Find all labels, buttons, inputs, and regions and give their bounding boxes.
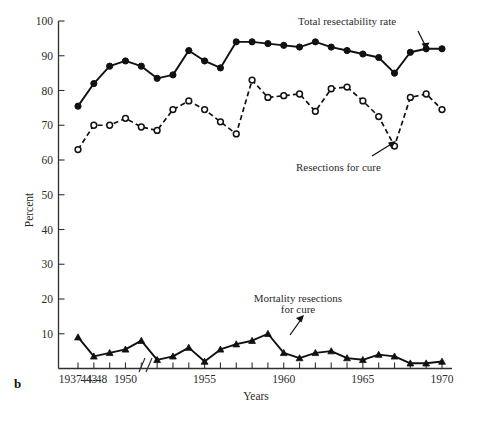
series-3 [75, 330, 446, 366]
data-point [217, 65, 223, 71]
data-point [154, 128, 160, 134]
data-point [138, 124, 144, 130]
data-point [202, 58, 208, 64]
data-point [123, 115, 129, 121]
data-point [107, 122, 113, 128]
x-tick-label: 1960 [272, 373, 295, 385]
data-point [439, 107, 445, 113]
panel-letter: b [14, 376, 21, 391]
data-point [249, 77, 255, 83]
y-tick-label: 30 [42, 258, 54, 270]
annotation-label-mortality-resections-line2: for cure [281, 303, 316, 315]
data-point [218, 119, 224, 125]
data-point [122, 58, 128, 64]
data-point [296, 44, 302, 50]
data-point [328, 44, 334, 50]
figure-panel-b: 102030405060708090100 Percent 1937-4344-… [0, 0, 486, 421]
data-point [376, 114, 382, 120]
data-point [297, 91, 303, 97]
y-axis: 102030405060708090100 Percent [23, 15, 65, 369]
data-point [186, 47, 192, 53]
data-point [344, 47, 350, 53]
y-axis-title: Percent [23, 192, 35, 227]
y-tick-label: 20 [42, 293, 54, 305]
data-point [407, 49, 413, 55]
data-point [407, 95, 413, 101]
annotation-mortality-resections: Mortality resections for cure [254, 292, 342, 335]
data-point [423, 91, 429, 97]
data-point [138, 337, 145, 343]
data-point [170, 72, 176, 78]
y-axis-tick-labels: 102030405060708090100 [36, 15, 54, 340]
data-point [265, 40, 271, 46]
data-point [233, 131, 239, 137]
x-tick-label: 44-48 [80, 373, 107, 385]
data-point [312, 108, 318, 114]
y-tick-label: 70 [42, 119, 54, 131]
data-point [186, 98, 192, 104]
y-tick-label: 80 [42, 85, 54, 97]
x-tick-label: 1950 [114, 373, 137, 385]
x-axis: 1937-4344-4819501955196019651970 Years [59, 358, 454, 402]
x-axis-ticks [78, 363, 442, 369]
data-point [281, 93, 287, 99]
data-point [360, 98, 366, 104]
data-point [202, 107, 208, 113]
data-point [170, 107, 176, 113]
data-point [391, 70, 397, 76]
x-axis-title: Years [243, 390, 269, 402]
annotation-resections-for-cure: Resections for cure [296, 141, 396, 173]
data-point [265, 330, 272, 336]
data-point [233, 39, 239, 45]
series-line [78, 42, 442, 106]
data-point [75, 334, 82, 340]
series-line [78, 334, 442, 364]
data-point [281, 42, 287, 48]
annotation-total-resectability: Total resectability rate [298, 15, 430, 50]
data-point [265, 95, 271, 101]
series-1 [75, 39, 445, 109]
x-tick-label: 1970 [431, 373, 454, 385]
data-point [360, 51, 366, 57]
x-tick-label: 1955 [193, 373, 216, 385]
y-tick-label: 100 [36, 15, 54, 27]
data-point [91, 80, 97, 86]
x-axis-tick-labels: 1937-4344-4819501955196019651970 [59, 373, 454, 385]
data-point [376, 54, 382, 60]
y-tick-label: 40 [42, 224, 54, 236]
data-point [91, 122, 97, 128]
series-line [78, 80, 442, 150]
series-2 [75, 77, 445, 152]
x-tick-label: 1965 [351, 373, 374, 385]
data-point [344, 84, 350, 90]
y-axis-ticks [59, 21, 65, 334]
y-tick-label: 10 [42, 328, 54, 340]
annotation-label-resections-for-cure: Resections for cure [296, 161, 381, 173]
data-point [312, 39, 318, 45]
series-layer [75, 39, 446, 366]
y-tick-label: 50 [42, 189, 54, 201]
data-point [75, 147, 81, 153]
data-point [107, 63, 113, 69]
y-tick-label: 60 [42, 154, 54, 166]
data-point [185, 344, 192, 350]
data-point [328, 86, 334, 92]
line-chart: 102030405060708090100 Percent 1937-4344-… [0, 0, 486, 421]
data-point [138, 63, 144, 69]
y-tick-label: 90 [42, 50, 54, 62]
data-point [439, 46, 445, 52]
data-point [249, 39, 255, 45]
data-point [75, 103, 81, 109]
data-point [154, 75, 160, 81]
annotation-label-total-resectability: Total resectability rate [298, 15, 396, 27]
